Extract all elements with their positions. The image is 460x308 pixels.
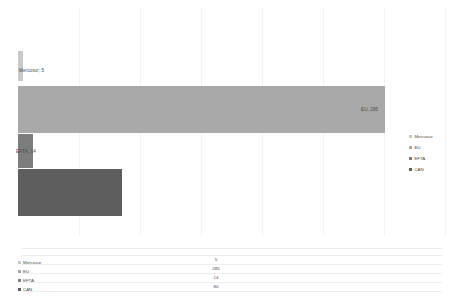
legend-label: Mercosur: [414, 134, 432, 139]
bar-mercosur[interactable]: [18, 51, 23, 81]
table-row-value: 5: [198, 257, 234, 262]
legend-swatch-icon: [409, 168, 412, 171]
bar-label-efta: EFTA; 14: [16, 149, 36, 154]
bar-can[interactable]: [18, 169, 122, 216]
legend-swatch-icon: [409, 135, 412, 138]
legend-swatch-icon: [409, 146, 412, 149]
chart-legend: Mercosur EU EFTA CAN: [409, 131, 459, 175]
bar-label-eu: EU; 285: [361, 107, 378, 112]
bar-eu[interactable]: [18, 86, 385, 133]
table-swatch-icon: [18, 288, 21, 291]
legend-label: EFTA: [414, 156, 425, 161]
legend-swatch-icon: [409, 157, 412, 160]
bar-label-mercosur: Mercosur; 5: [19, 68, 44, 73]
legend-item-eu[interactable]: EU: [409, 142, 459, 153]
table-row-label: EU: [23, 269, 29, 274]
bar-chart: Mercosur; 5 EU; 285 EFTA; 14: [0, 0, 460, 243]
gridline: [445, 8, 446, 236]
table-rule: [22, 255, 442, 256]
table-row-label: Mercosur: [23, 260, 41, 265]
table-row-value: 14: [198, 275, 234, 280]
table-row-label: CAN: [23, 287, 32, 292]
table-row-value: 80: [198, 284, 234, 289]
table-row-label: EFTA: [23, 278, 34, 283]
table-swatch-icon: [18, 261, 21, 264]
legend-item-mercosur[interactable]: Mercosur: [409, 131, 459, 142]
table-rule: [22, 248, 442, 249]
legend-label: CAN: [414, 167, 423, 172]
table-swatch-icon: [18, 279, 21, 282]
legend-label: EU: [414, 145, 420, 150]
legend-item-can[interactable]: CAN: [409, 164, 459, 175]
data-table: Total Mercosur 5 EU 285 EFTA 14 CAN 80: [0, 246, 460, 308]
table-row-value: 285: [198, 266, 234, 271]
table-swatch-icon: [18, 270, 21, 273]
legend-item-efta[interactable]: EFTA: [409, 153, 459, 164]
